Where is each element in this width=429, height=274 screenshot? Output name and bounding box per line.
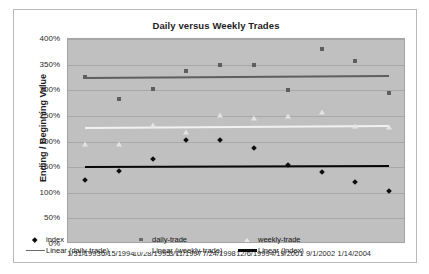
trendline-index [85, 165, 389, 168]
diamond-marker-icon [24, 238, 46, 242]
line-swatch-icon [236, 249, 258, 251]
data-point-daily-trade [151, 87, 155, 91]
data-point-weekly-trade [217, 113, 223, 118]
data-point-daily-trade [387, 91, 391, 95]
legend-item-index[interactable]: index [24, 235, 130, 244]
gridline [68, 90, 404, 91]
legend-item-daily-trade[interactable]: daily-trade [130, 235, 236, 244]
x-axis-tick-label: 1/14/2004 [338, 249, 371, 258]
y-axis-tick-label: 250% [16, 110, 60, 119]
square-marker-icon [130, 238, 152, 242]
legend-label: Linear (weekly-trade) [152, 246, 222, 255]
y-axis-tick-label: 200% [16, 136, 60, 145]
data-point-weekly-trade [319, 109, 325, 114]
trendline-daily [85, 75, 389, 79]
data-point-weekly-trade [116, 141, 122, 146]
legend-label: Linear (daily-trade) [46, 246, 109, 255]
legend-label: Linear (index) [258, 246, 304, 255]
data-point-weekly-trade [150, 123, 156, 128]
chart-page: Daily versus Weekly Trades Ending / Begi… [0, 0, 429, 274]
y-axis-tick-label: 50% [16, 213, 60, 222]
trendline-weekly [85, 125, 389, 129]
legend-item-linear-index[interactable]: Linear (index) [236, 246, 342, 255]
legend-row-trendlines: Linear (daily-trade) Linear (weekly-trad… [24, 245, 342, 256]
legend-item-linear-daily-trade[interactable]: Linear (daily-trade) [24, 246, 130, 255]
data-point-weekly-trade [183, 129, 189, 134]
data-point-daily-trade [252, 63, 256, 67]
data-point-index [251, 145, 257, 151]
y-axis-tick-label: 100% [16, 187, 60, 196]
gridline [68, 39, 404, 40]
data-point-weekly-trade [386, 125, 392, 130]
data-point-index [352, 179, 358, 185]
y-axis-tick-label: 400% [16, 34, 60, 43]
data-point-index [82, 178, 88, 184]
y-axis-tick-label: 150% [16, 162, 60, 171]
gridline [68, 116, 404, 117]
legend-label: daily-trade [152, 235, 187, 244]
chart-frame: Daily versus Weekly Trades Ending / Begi… [13, 9, 417, 263]
line-swatch-icon [24, 250, 46, 252]
data-point-index [116, 168, 122, 174]
data-point-daily-trade [83, 75, 87, 79]
legend-label: index [46, 235, 64, 244]
data-point-index [319, 169, 325, 175]
data-point-weekly-trade [285, 113, 291, 118]
line-swatch-icon [130, 250, 152, 252]
data-point-daily-trade [184, 69, 188, 73]
data-point-weekly-trade [352, 124, 358, 129]
gridline [68, 218, 404, 219]
y-axis-tick-label: 350% [16, 59, 60, 68]
triangle-marker-icon [236, 238, 258, 242]
legend-item-linear-weekly-trade[interactable]: Linear (weekly-trade) [130, 246, 236, 255]
legend-row-markers: index daily-trade weekly-trade [24, 234, 342, 245]
legend-item-weekly-trade[interactable]: weekly-trade [236, 235, 342, 244]
y-axis-title: Ending / Beginning Value [38, 58, 48, 198]
data-point-daily-trade [117, 97, 121, 101]
y-axis-tick-label: 300% [16, 85, 60, 94]
gridline [68, 193, 404, 194]
data-point-weekly-trade [251, 116, 257, 121]
data-point-daily-trade [218, 63, 222, 67]
legend-label: weekly-trade [258, 235, 301, 244]
gridline [68, 65, 404, 66]
chart-title: Daily versus Weekly Trades [14, 20, 418, 31]
data-point-daily-trade [286, 88, 290, 92]
data-point-daily-trade [353, 59, 357, 63]
chart-legend: index daily-trade weekly-trade Linear (d… [24, 234, 342, 256]
data-point-daily-trade [320, 47, 324, 51]
data-point-weekly-trade [82, 141, 88, 146]
plot-area [67, 38, 405, 243]
data-point-index [150, 157, 156, 163]
